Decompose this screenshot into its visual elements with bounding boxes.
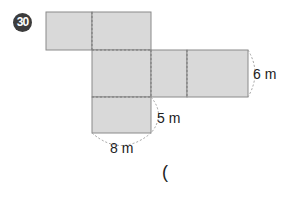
face-right-1	[151, 50, 187, 97]
face-center	[92, 50, 151, 97]
height-dimension-label: 6 m	[253, 67, 276, 81]
face-right-2	[187, 50, 248, 97]
cuboid-net-diagram	[0, 0, 299, 200]
width-dimension-label: 8 m	[110, 141, 133, 155]
depth-dimension-label: 5 m	[157, 111, 180, 125]
face-top-middle	[92, 12, 151, 50]
face-top-left	[46, 12, 92, 50]
face-bottom	[92, 97, 151, 133]
answer-blank-open-paren: (	[162, 163, 168, 181]
